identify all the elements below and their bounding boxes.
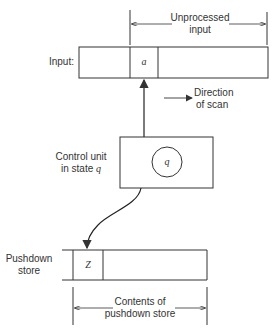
unprocessed-line1: Unprocessed: [170, 12, 230, 24]
direction-line2: of scan: [194, 99, 244, 111]
stack-head-arrow: [87, 188, 141, 248]
pushdown-contents-label: Contents of pushdown store: [100, 296, 180, 320]
pda-diagram-canvas: [0, 0, 279, 335]
pushdown-store-label: Pushdown store: [4, 253, 54, 277]
control-unit-label: Control unit in state q: [50, 151, 112, 175]
direction-of-scan-label: Direction of scan: [194, 87, 244, 111]
stack-top-symbol: Z: [80, 259, 96, 271]
input-label: Input:: [40, 56, 74, 68]
unprocessed-line2: input: [170, 24, 230, 36]
control-unit-line1: Control unit: [50, 151, 112, 163]
state-circle-symbol: q: [159, 156, 175, 168]
control-unit-line2: in state: [61, 163, 96, 174]
input-tape: [79, 47, 268, 78]
contents-line1: Contents of: [100, 296, 180, 308]
unprocessed-input-label: Unprocessed input: [170, 12, 230, 36]
direction-line1: Direction: [194, 87, 244, 99]
contents-line2: pushdown store: [100, 308, 180, 320]
input-current-symbol: a: [136, 56, 152, 68]
control-unit-state-symbol: q: [96, 163, 101, 174]
pushdown-line2: store: [4, 265, 54, 277]
pushdown-line1: Pushdown: [4, 253, 54, 265]
